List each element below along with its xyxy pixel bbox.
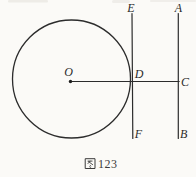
label-A: A — [174, 1, 183, 15]
tangent-line-EF — [132, 14, 133, 139]
figure-caption: 123 — [86, 157, 118, 171]
geometry-diagram-canvas: E A O D C F B 123 — [0, 0, 196, 177]
caption-number: 123 — [98, 157, 118, 171]
label-F: F — [134, 127, 143, 141]
scan-smudge — [150, 0, 196, 2]
label-O: O — [64, 65, 73, 79]
center-point-dot — [69, 80, 72, 83]
scan-smudge — [8, 0, 48, 3]
scanned-figure-page: E A O D C F B 123 — [0, 0, 196, 177]
label-D: D — [134, 67, 144, 81]
label-E: E — [126, 1, 135, 15]
caption-prefix-glyph-tu — [86, 159, 95, 169]
label-C: C — [181, 75, 190, 89]
label-B: B — [180, 127, 188, 141]
circle-O — [13, 20, 131, 138]
